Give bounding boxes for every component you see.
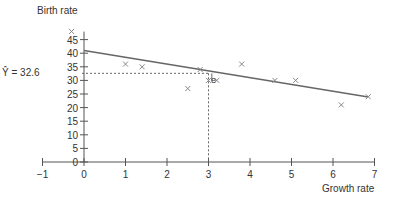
data-point	[69, 29, 74, 34]
x-tick-label: 3	[206, 169, 212, 180]
data-point	[123, 62, 128, 67]
y-tick-label: 15	[67, 116, 79, 127]
x-tick-label: 0	[81, 169, 87, 180]
x-tick-label: 5	[289, 169, 295, 180]
y-tick-label: 20	[67, 103, 79, 114]
y-tick-label: 0	[72, 157, 78, 168]
data-point	[140, 64, 145, 69]
y-tick-label: 45	[67, 35, 79, 46]
x-tick-label: −1	[37, 169, 49, 180]
scatter-chart: −101234567051015202530354045 Birth rate …	[0, 0, 395, 200]
x-tick-label: 1	[123, 169, 129, 180]
data-points	[69, 29, 371, 107]
y-tick-label: 10	[67, 130, 79, 141]
data-point	[185, 86, 190, 91]
y-tick-label: 5	[72, 143, 78, 154]
data-point	[293, 78, 298, 83]
prediction-guides	[82, 73, 212, 162]
data-point	[239, 62, 244, 67]
axes: −101234567051015202530354045	[37, 32, 378, 180]
residual-label: e	[211, 75, 216, 85]
y-tick-label: 30	[67, 75, 79, 86]
x-tick-label: 4	[247, 169, 253, 180]
y-tick-label: 40	[67, 48, 79, 59]
y-tick-label: 35	[67, 62, 79, 73]
y-axis-label: Birth rate	[37, 5, 78, 16]
yhat-annotation: Ŷ = 32.6	[2, 66, 40, 78]
x-axis-label: Growth rate	[322, 183, 375, 194]
x-tick-label: 6	[330, 169, 336, 180]
x-tick-label: 7	[372, 169, 378, 180]
data-point	[339, 102, 344, 107]
y-tick-label: 25	[67, 89, 79, 100]
x-tick-label: 2	[164, 169, 170, 180]
